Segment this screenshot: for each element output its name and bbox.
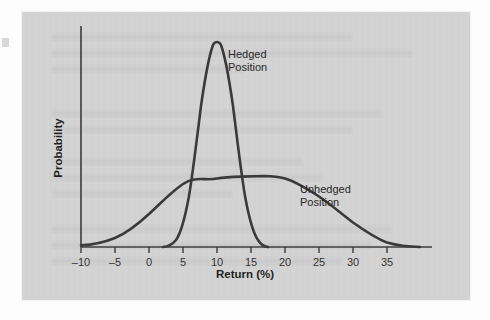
y-axis-title: Probability xyxy=(52,118,64,177)
figure-root: –10 –5 0 5 10 15 20 25 30 35 Return (%) … xyxy=(0,0,490,320)
annotation-hedged-position: Hedged Position xyxy=(228,48,267,75)
annotation-unhedged-position: Unhedged Position xyxy=(300,183,351,210)
x-tick-label: 0 xyxy=(146,256,152,268)
x-tick-label: 5 xyxy=(180,256,186,268)
x-tick-label: –5 xyxy=(109,256,121,268)
x-axis-title: Return (%) xyxy=(216,268,274,280)
curve-unhedged-position xyxy=(81,176,420,247)
x-tick-label: –10 xyxy=(72,256,90,268)
x-tick-label: 35 xyxy=(381,256,393,268)
x-tick-label: 25 xyxy=(313,256,325,268)
x-tick-label: 15 xyxy=(245,256,257,268)
x-tick-label: 30 xyxy=(347,256,359,268)
x-tick-label: 20 xyxy=(279,256,291,268)
x-tick-label: 10 xyxy=(211,256,223,268)
x-axis-ticks xyxy=(81,247,387,253)
